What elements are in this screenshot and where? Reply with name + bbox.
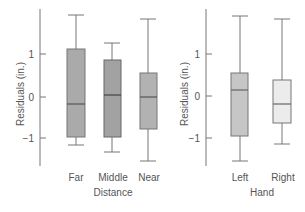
x-axis-label: Hand [250, 187, 274, 198]
y-axis-label: Residuals (in.) [15, 62, 26, 126]
y-tick-label: −1 [189, 133, 201, 144]
category-label-near: Near [138, 172, 160, 183]
box-far [67, 15, 85, 145]
boxplot-figure: 1 0 −1 Residuals (in.) [0, 0, 305, 212]
y-tick-label: 0 [28, 92, 34, 103]
y-tick-label: −1 [23, 133, 35, 144]
y-tick-label: 1 [28, 49, 34, 60]
x-axis-label: Distance [94, 187, 133, 198]
box-near [140, 19, 157, 161]
y-tick-label: 1 [194, 49, 200, 60]
category-label-middle: Middle [98, 172, 128, 183]
y-tick-label: 0 [194, 91, 200, 102]
box-right [273, 19, 291, 144]
category-label-left: Left [232, 172, 249, 183]
box-left [231, 16, 248, 161]
category-label-far: Far [69, 172, 85, 183]
box-middle [104, 43, 121, 152]
y-axis-label: Residuals (in.) [179, 62, 190, 126]
distance-panel: 1 0 −1 Residuals (in.) [15, 9, 161, 198]
hand-panel: 1 0 −1 Residuals (in.) Left Right Hand [179, 9, 295, 198]
category-label-right: Right [271, 172, 295, 183]
